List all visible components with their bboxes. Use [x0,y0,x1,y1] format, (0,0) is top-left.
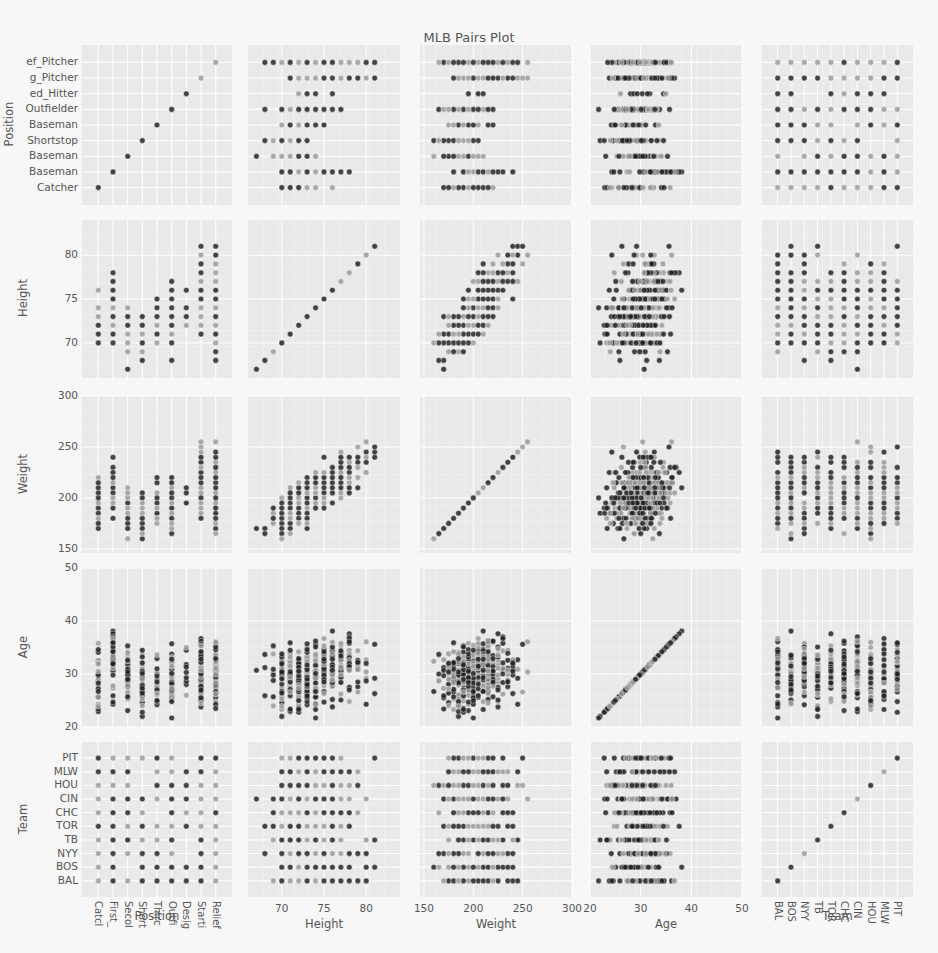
data-point [279,521,285,527]
data-point [279,531,285,537]
data-point [855,154,861,160]
data-point [635,331,641,337]
data-point [347,699,353,705]
data-point [630,878,636,884]
data-point [505,651,511,657]
data-point [446,796,452,802]
data-point [213,526,219,532]
data-point [634,485,640,491]
data-point [619,244,625,250]
data-point [262,60,268,66]
data-point [347,465,353,471]
data-point [313,480,319,486]
data-point [788,107,794,113]
data-point [475,305,481,311]
data-point [679,485,685,491]
data-point [881,657,887,663]
data-point [330,169,336,175]
data-point [169,480,175,486]
data-point [330,697,336,703]
x-tick-label: 20 [580,902,600,914]
data-point [466,287,472,293]
data-point [868,656,874,662]
data-point [881,707,887,713]
data-point [96,641,102,647]
data-point [436,652,442,658]
data-point [855,252,861,258]
data-point [775,314,781,320]
data-point [480,837,486,843]
data-point [96,824,102,830]
data-point [213,244,219,250]
data-point [868,185,874,191]
data-point [431,659,437,665]
data-point [347,639,353,645]
data-point [372,864,378,870]
data-point [330,60,336,66]
data-point [841,671,847,677]
data-point [330,878,336,884]
data-point [466,708,472,714]
data-point [802,661,808,667]
panel-height-vs-age [590,220,742,378]
data-point [652,287,658,293]
data-point [313,305,319,311]
data-point [802,261,808,267]
data-point [198,314,204,320]
data-point [490,122,496,128]
data-point [637,470,643,476]
data-point [640,500,646,506]
data-point [667,485,673,491]
data-point [321,107,327,113]
data-point [446,864,452,870]
data-point [466,169,472,175]
data-point [660,465,666,471]
data-point [96,695,102,701]
data-point [802,331,808,337]
data-point [633,154,639,160]
data-point [619,279,625,285]
data-point [304,837,310,843]
data-point [841,349,847,355]
data-point [775,270,781,276]
data-point [198,331,204,337]
x-tick-label: 150 [414,902,434,914]
data-point [868,536,874,542]
data-point [213,755,219,761]
data-point [431,340,437,346]
data-point [213,305,219,311]
data-point [110,287,116,293]
data-point [446,703,452,709]
data-point [505,783,511,789]
data-point [154,305,160,311]
data-point [775,485,781,491]
data-point [213,666,219,672]
data-point [198,783,204,789]
data-point [603,154,609,160]
data-point [296,796,302,802]
data-point [466,651,472,657]
data-point [505,824,511,830]
data-point [855,185,861,191]
data-point [466,75,472,81]
data-point [154,666,160,672]
data-point [485,649,491,655]
data-point [254,526,260,532]
data-point [841,676,847,682]
data-point [643,470,649,476]
data-point [304,796,310,802]
data-point [613,323,619,329]
data-point [355,475,361,481]
data-point [372,444,378,450]
data-point [652,769,658,775]
y-axis-label-age: Age [16,622,30,672]
data-point [841,495,847,501]
panel-weight-vs-position [82,396,232,553]
data-point [296,698,302,704]
data-point [868,510,874,516]
data-point [855,107,861,113]
data-point [271,516,277,522]
data-point [520,783,526,789]
data-point [198,851,204,857]
data-point [828,480,834,486]
